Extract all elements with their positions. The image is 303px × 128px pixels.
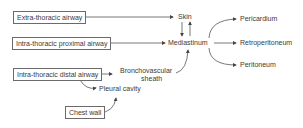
node-bronchovascular-sheath: Bronchovascular sheath: [120, 67, 172, 83]
arrow-mediastinum-to-pericardium: [209, 19, 236, 38]
node-mediastinum: Mediastinum: [168, 39, 208, 47]
node-intra-thoracic-distal-airway: Intra-thoracic distal airway: [13, 68, 102, 81]
node-pericardium: Pericardium: [240, 15, 277, 23]
node-peritoneum: Peritoneum: [240, 61, 276, 69]
bronchovascular-line2: sheath: [120, 75, 172, 83]
node-pleural-cavity: Pleural cavity: [99, 85, 141, 93]
arrow-distal-to-pleural: [80, 80, 96, 88]
node-retroperitoneum: Retroperitoneum: [240, 39, 292, 47]
node-extra-thoracic-airway: Extra-thoracic airway: [13, 11, 86, 24]
node-skin: Skin: [178, 13, 192, 21]
bronchovascular-line1: Bronchovascular: [120, 67, 172, 75]
arrow-mediastinum-to-peritoneum: [209, 48, 236, 65]
node-chest-wall: Chest wall: [65, 106, 105, 119]
arrow-bronchovascular-to-mediastinum: [176, 50, 188, 73]
node-intra-thoracic-proximal-airway: Intra-thoracic proximal airway: [12, 37, 111, 50]
